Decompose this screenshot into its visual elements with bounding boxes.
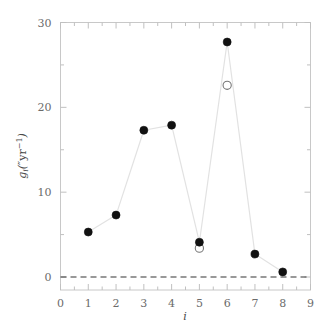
y-axis-tick-label: 30 (38, 17, 52, 30)
x-axis-major-ticks (61, 23, 311, 291)
y-axis-title-exponent: −1 (15, 138, 24, 150)
data-point-filled (251, 250, 259, 258)
y-axis-title-close-paren: ) (16, 133, 29, 138)
x-axis-tick-label: 5 (196, 297, 203, 310)
x-axis-tick-label: 6 (224, 297, 231, 310)
x-axis-tick-label: 3 (140, 297, 147, 310)
data-point-open (223, 81, 231, 89)
y-axis-minor-ticks (61, 65, 311, 235)
x-axis-tick-label: 1 (85, 297, 92, 310)
y-axis-tick-label: 20 (38, 101, 52, 114)
x-axis-tick-label: 4 (168, 297, 175, 310)
data-point-filled (223, 38, 231, 46)
x-axis-tick-label: 2 (113, 297, 120, 310)
data-point-filled (279, 268, 287, 276)
y-axis-tick-labels: 0102030 (38, 17, 52, 285)
series-connecting-lines (88, 42, 282, 272)
x-axis-tick-label: 8 (279, 297, 286, 310)
x-axis-tick-labels: 0123456789 (57, 297, 314, 310)
x-axis-tick-label: 9 (307, 297, 314, 310)
x-axis-title: i (183, 310, 187, 323)
data-point-filled (112, 211, 120, 219)
open-circle-markers (195, 81, 231, 252)
data-point-filled (84, 228, 92, 236)
svg-text:gi(″yr−1): gi(″yr−1) (15, 133, 30, 179)
y-axis-major-ticks (61, 23, 311, 278)
filled-circle-markers (84, 38, 286, 276)
x-axis-tick-label: 0 (57, 297, 64, 310)
y-axis-tick-label: 0 (45, 271, 52, 284)
x-axis-tick-label: 7 (251, 297, 258, 310)
data-point-filled (140, 126, 148, 134)
y-axis-title-unit: yr (16, 149, 29, 162)
scatter-plot: 0102030 0123456789 i gi(″yr−1) (0, 0, 331, 335)
data-point-filled (195, 238, 203, 246)
data-point-filled (168, 121, 176, 129)
y-axis-title: gi(″yr−1) (15, 133, 30, 179)
y-axis-title-symbol: g (16, 172, 29, 179)
y-axis-tick-label: 10 (38, 186, 52, 199)
plot-frame (61, 23, 311, 291)
series-line-filled (88, 42, 282, 272)
chart-figure: 0102030 0123456789 i gi(″yr−1) (0, 0, 331, 335)
